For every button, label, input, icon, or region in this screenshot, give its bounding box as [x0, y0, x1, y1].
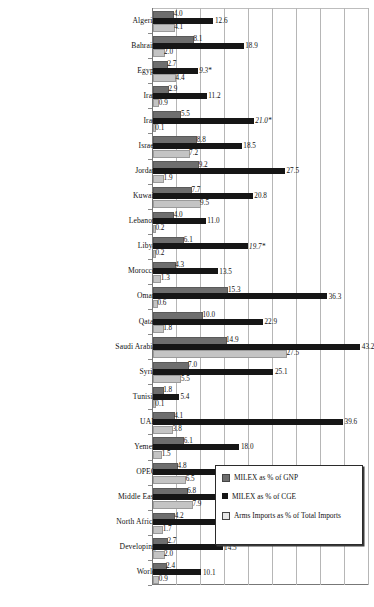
bar-value-cge: 27.5: [287, 168, 300, 175]
bar-value-cge: 13.5: [219, 269, 232, 276]
chart-row: Iran2.911.20.9: [0, 83, 372, 108]
bar-cge: [153, 293, 327, 299]
chart-row: Algeria4.012.64.1: [0, 8, 372, 33]
chart-row: Egypt2.79.3*4.4: [0, 58, 372, 83]
bar-value-cge: 18.0: [241, 444, 254, 451]
category-label: Qatar: [8, 317, 156, 326]
bar-arms: [153, 325, 164, 333]
bar-value-arms: 4.4: [176, 75, 185, 82]
bar-value-cge: 18.5: [243, 143, 256, 150]
chart-row: Tunisia1.85.40.1: [0, 384, 372, 409]
bar-value-arms: 1.3: [161, 275, 170, 282]
bar-value-arms: 1.8: [163, 325, 172, 332]
chart-row: Yemen6.118.01.5: [0, 434, 372, 459]
bar-value-arms: 4.1: [174, 24, 183, 31]
legend-item-arms: Arms Imports as % of Total Imports: [222, 511, 356, 520]
category-label: Syria: [8, 367, 156, 376]
legend-item-cge: MILEX as % of CGE: [222, 492, 356, 501]
bar-value-cge: 18.9: [245, 43, 258, 50]
category-label: World: [8, 567, 156, 576]
bar-value-arms: 0.9: [159, 576, 168, 583]
category-label: Israel: [8, 141, 156, 150]
bar-value-arms: 0.2: [155, 250, 164, 257]
bar-value-arms: 1.5: [162, 451, 171, 458]
category-label: Developing: [8, 542, 156, 551]
bar-value-cge: 11.0: [207, 218, 219, 225]
category-label: Jordan: [8, 166, 156, 175]
bar-value-arms: 27.5: [287, 350, 300, 357]
bar-cge: [153, 93, 207, 99]
bar-value-cge: 9.3*: [199, 68, 212, 75]
bar-value-cge: 14.5: [224, 545, 237, 552]
category-label: North Africa: [8, 517, 156, 526]
legend-label-cge: MILEX as % of CGE: [232, 492, 296, 501]
bar-arms: [153, 426, 173, 434]
bar-cge: [153, 68, 198, 74]
category-label: Oman: [8, 291, 156, 300]
category-label: Kuwait: [8, 191, 156, 200]
legend-item-gnp: MILEX as % of GNP: [222, 473, 356, 482]
bar-arms: [153, 150, 190, 158]
bar-value-arms: 0.1: [155, 125, 164, 132]
chart-row: Jordan9.227.51.9: [0, 159, 372, 184]
bar-arms: [153, 375, 181, 383]
bar-arms: [153, 526, 163, 534]
category-label: OPEC: [8, 467, 156, 476]
bar-cge: [153, 344, 360, 350]
bar-arms: [153, 350, 287, 358]
legend-label-gnp: MILEX as % of GNP: [234, 473, 298, 482]
legend-swatch-arms-icon: [222, 512, 230, 520]
bar-cge: [153, 118, 254, 124]
bar-value-cge: 39.6: [345, 419, 358, 426]
bar-value-cge: 21.0*: [255, 118, 271, 125]
bar-value-arms: 3.8: [173, 426, 182, 433]
category-label: Saudi Arabia: [8, 342, 156, 351]
category-label: Iran: [8, 91, 156, 100]
legend-label-arms: Arms Imports as % of Total Imports: [234, 511, 341, 520]
chart-row: Iraq5.521.0*0.1: [0, 108, 372, 133]
bar-value-cge: 43.2: [362, 344, 374, 351]
bar-value-arms: 0.2: [155, 225, 164, 232]
category-label: UAE: [8, 417, 156, 426]
bar-arms: [153, 175, 164, 183]
bar-value-arms: 5.5: [181, 376, 190, 383]
legend-swatch-cge-icon: [222, 493, 228, 499]
bar-arms: [153, 74, 176, 82]
chart-row: World2.410.10.9: [0, 560, 372, 585]
category-label: Libya: [8, 241, 156, 250]
bar-cge: [153, 369, 273, 375]
bar-value-cge: 19.7*: [249, 244, 265, 251]
bar-value-arms: 0.1: [155, 401, 164, 408]
chart-row: Lebanon4.011.00.2: [0, 209, 372, 234]
bar-value-cge: 12.6: [215, 18, 228, 25]
bar-cge: [153, 243, 248, 249]
tick-world: [148, 585, 152, 586]
category-label: Iraq: [8, 116, 156, 125]
bar-value-arms: 7.9: [192, 501, 201, 508]
chart-row: Qatar10.022.91.8: [0, 309, 372, 334]
bar-value-cge: 5.4: [180, 394, 189, 401]
bar-arms: [153, 501, 193, 509]
chart-row: Saudi Arabia14.943.227.5: [0, 334, 372, 359]
bar-arms: [153, 200, 201, 208]
chart-legend: MILEX as % of GNP MILEX as % of CGE Arms…: [215, 465, 363, 545]
bar-value-cge: 36.3: [329, 294, 342, 301]
category-label: Algeria: [8, 16, 156, 25]
bar-cge: [153, 18, 213, 24]
category-label: Tunisia: [8, 392, 156, 401]
category-label: Lebanon: [8, 216, 156, 225]
bar-value-cge: 11.2: [208, 93, 220, 100]
bar-value-arms: 1.7: [163, 526, 172, 533]
chart-row: Syria7.025.15.5: [0, 359, 372, 384]
category-label: Yemen: [8, 442, 156, 451]
bar-arms: [153, 476, 186, 484]
chart-row: UAE4.139.63.8: [0, 409, 372, 434]
category-label: Egypt: [8, 66, 156, 75]
bar-value-cge: 22.9: [264, 319, 277, 326]
bar-arms: [153, 49, 165, 57]
chart-row: Kuwait7.720.89.5: [0, 184, 372, 209]
bar-cge: [153, 394, 179, 400]
bar-value-cge: 20.8: [254, 193, 267, 200]
bar-value-cge: 25.1: [275, 369, 288, 376]
